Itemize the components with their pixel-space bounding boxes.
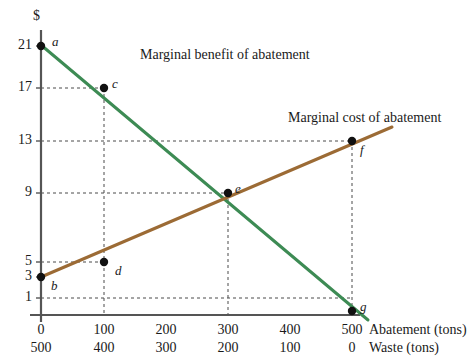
y-tick-label-13: 13 <box>10 132 32 148</box>
data-point-a <box>37 42 45 50</box>
y-tick-label-5: 5 <box>10 253 32 269</box>
point-label-c: c <box>112 76 118 92</box>
data-point-c <box>100 84 108 92</box>
marginal-benefit-series-label: Marginal benefit of abatement <box>140 47 310 63</box>
x-tick-label-abatement-0: 0 <box>21 322 61 338</box>
x-tick-label-waste-0: 0 <box>332 340 372 356</box>
y-tick-label-1: 1 <box>10 289 32 305</box>
x-tick-label-abatement-500: 500 <box>332 322 372 338</box>
marginal-cost-line <box>41 127 392 277</box>
x-tick-label-abatement-400: 400 <box>270 322 310 338</box>
y-tick-label-9: 9 <box>10 184 32 200</box>
guide-lines-f <box>41 141 352 315</box>
x-tick-label-waste-300: 300 <box>146 340 186 356</box>
x-tick-label-abatement-100: 100 <box>84 322 124 338</box>
y-tick-label-17: 17 <box>10 79 32 95</box>
point-label-g: g <box>360 299 367 315</box>
abatement-chart: $ 21 17 13 9 5 3 1 0 100 200 300 400 500… <box>0 0 476 364</box>
data-point-b <box>37 273 45 281</box>
data-point-f <box>348 137 356 145</box>
x-axis-primary-title: Abatement (tons) <box>369 322 467 338</box>
x-tick-label-waste-100: 100 <box>270 340 310 356</box>
data-point-e <box>224 189 232 197</box>
x-tick-label-waste-500: 500 <box>21 340 61 356</box>
marginal-cost-series-label: Marginal cost of abatement <box>288 110 441 126</box>
x-tick-label-abatement-200: 200 <box>146 322 186 338</box>
y-tick-label-3: 3 <box>10 268 32 284</box>
point-label-e: e <box>235 181 241 197</box>
y-axis-unit-label: $ <box>33 8 40 24</box>
x-tick-label-waste-400: 400 <box>84 340 124 356</box>
point-label-a: a <box>52 34 59 50</box>
marginal-benefit-line <box>41 45 368 320</box>
point-label-f: f <box>360 142 364 158</box>
y-tick-label-21: 21 <box>10 37 32 53</box>
x-tick-label-abatement-300: 300 <box>208 322 248 338</box>
data-point-g <box>348 307 356 315</box>
point-label-b: b <box>51 278 58 294</box>
point-label-d: d <box>115 263 122 279</box>
x-tick-label-waste-200: 200 <box>208 340 248 356</box>
data-point-d <box>100 258 108 266</box>
guide-lines-e <box>41 193 228 315</box>
x-axis-secondary-title: Waste (tons) <box>369 340 439 356</box>
